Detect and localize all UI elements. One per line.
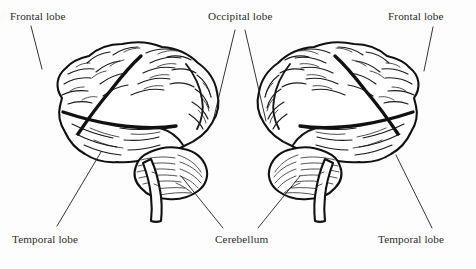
- brain-diagram-canvas: [0, 0, 476, 269]
- label-occipital-lobe: Occipital lobe: [208, 11, 272, 22]
- label-cerebellum: Cerebellum: [215, 234, 268, 245]
- left-brain-lateral-view: [57, 42, 218, 221]
- leader-line-occipital-right: [245, 30, 266, 121]
- label-temporal-lobe-right: Temporal lobe: [378, 234, 444, 245]
- leader-line-frontal-right: [424, 27, 433, 71]
- label-frontal-lobe-right: Frontal lobe: [388, 11, 444, 22]
- leader-line-temporal-left: [57, 152, 101, 226]
- label-frontal-lobe-left: Frontal lobe: [10, 11, 66, 22]
- leader-line-temporal-right: [396, 155, 432, 228]
- label-temporal-lobe-left: Temporal lobe: [12, 234, 78, 245]
- leader-line-frontal-left: [31, 26, 42, 69]
- brain-anatomy-figure: Frontal lobe Occipital lobe Frontal lobe…: [0, 0, 476, 269]
- right-brain-lateral-view: [258, 42, 419, 221]
- leader-line-occipital-left: [213, 30, 235, 121]
